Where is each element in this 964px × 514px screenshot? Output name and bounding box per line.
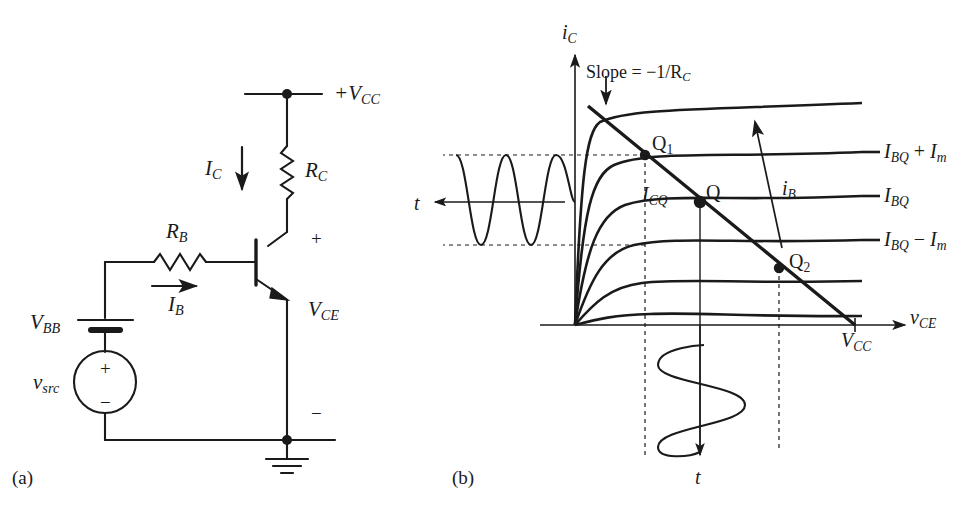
bias-source-label: VBB xyxy=(30,310,60,337)
char-curve-3 xyxy=(575,196,862,325)
q2-point-label: Q2 xyxy=(789,250,810,276)
output-sine-waveform xyxy=(658,345,745,456)
base-current-label: IB xyxy=(168,292,184,319)
rc-resistor-symbol xyxy=(281,146,293,199)
ib-direction-arrow xyxy=(755,122,782,248)
input-sine-waveform xyxy=(456,155,575,245)
collector-current-label: IC xyxy=(205,156,222,183)
figure-svg xyxy=(0,0,964,514)
curve-label-ibq-plus-im: IBQ + Im xyxy=(884,140,947,166)
source-minus-sign: − xyxy=(100,392,111,414)
q1-point-label: Q1 xyxy=(652,132,673,158)
char-curve-2 xyxy=(575,152,862,325)
panel-b-label: (b) xyxy=(452,467,474,489)
supply-voltage-label: +VCC xyxy=(334,81,380,108)
vce-plus-sign: + xyxy=(311,228,322,250)
curve-label-ibq: IBQ xyxy=(884,184,909,210)
characteristic-graph xyxy=(435,55,905,458)
ib-arrow-label: iB xyxy=(782,177,796,203)
circuit-schematic xyxy=(74,89,335,473)
vce-minus-sign: − xyxy=(311,403,322,425)
collector-lead xyxy=(268,232,287,246)
signal-source-label: vsrc xyxy=(33,370,59,397)
emitter-arrowhead xyxy=(270,288,288,300)
source-plus-sign: + xyxy=(100,358,111,380)
vce-axis-label: vCE xyxy=(910,306,936,332)
base-resistor-label: RB xyxy=(166,219,188,246)
ic-axis-label: iC xyxy=(562,21,577,47)
panel-a-label: (a) xyxy=(12,467,33,489)
slope-label: Slope = −1/RC xyxy=(586,62,690,85)
char-curve-6 xyxy=(575,314,862,325)
left-time-axis-label: t xyxy=(414,192,420,215)
output-voltage-label: VCE xyxy=(308,297,339,324)
char-curve-5 xyxy=(575,281,862,325)
figure-container: +VCC RC IC RB IB VBB vsrc + − VCE + − (a… xyxy=(0,0,964,514)
collector-resistor-label: RC xyxy=(305,158,327,185)
q-point-label: Q xyxy=(706,181,720,204)
rb-resistor-symbol xyxy=(154,254,206,270)
bottom-time-axis-label: t xyxy=(695,466,701,489)
dc-load-line xyxy=(588,106,855,325)
vcc-intercept-label: VCC xyxy=(841,329,871,355)
icq-label: ICQ xyxy=(642,183,668,209)
curve-label-ibq-minus-im: IBQ − Im xyxy=(884,228,947,254)
